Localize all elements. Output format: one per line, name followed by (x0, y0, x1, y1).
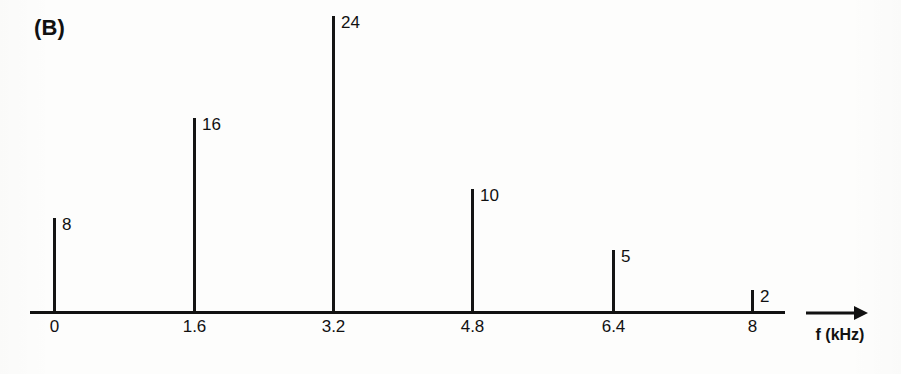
spectral-line-value-label: 10 (480, 187, 499, 204)
right-arrow-icon (806, 303, 868, 323)
spectral-line-value-label: 5 (621, 248, 630, 265)
spectral-line (332, 16, 335, 313)
spectral-line-value-label: 8 (62, 216, 71, 233)
plot-area: 80161.6243.2104.856.428 f (kHz) (0, 0, 901, 374)
x-axis-tick-label: 4.8 (461, 317, 485, 337)
x-axis-tick-label: 3.2 (322, 317, 346, 337)
spectrum-figure-panel-b: (B) 80161.6243.2104.856.428 f (kHz) (0, 0, 901, 374)
spectral-line (471, 189, 474, 313)
frequency-axis-baseline (30, 311, 785, 314)
x-axis-tick-label: 0 (50, 317, 59, 337)
spectral-line (53, 218, 56, 313)
x-axis-tick-label: 6.4 (602, 317, 626, 337)
spectral-line-value-label: 16 (202, 116, 221, 133)
x-axis-tick-label: 1.6 (183, 317, 207, 337)
spectral-line (193, 118, 196, 313)
x-axis-label: f (kHz) (800, 326, 880, 344)
spectral-line-value-label: 24 (341, 14, 360, 31)
x-axis-tick-label: 8 (748, 317, 757, 337)
spectral-line-value-label: 2 (760, 288, 769, 305)
